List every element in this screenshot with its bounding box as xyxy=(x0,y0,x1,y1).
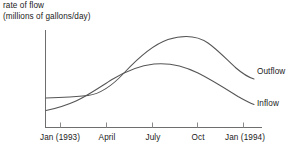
series-curve-outflow xyxy=(46,37,254,98)
x-axis-ticks xyxy=(61,123,244,128)
series-label-outflow: Outflow xyxy=(257,67,285,77)
x-tick-label-jan-1994: Jan (1994) xyxy=(225,133,265,143)
x-tick-label-oct: Oct xyxy=(192,133,205,143)
flow-rate-chart: rate of flow (millions of gallons/day) J… xyxy=(0,0,290,161)
series-label-inflow: Inflow xyxy=(257,99,279,109)
x-tick-label-jan-1993: Jan (1993) xyxy=(40,133,80,143)
x-tick-label-july: July xyxy=(146,133,161,143)
series-curve-inflow xyxy=(46,64,254,111)
x-tick-label-april: April xyxy=(99,133,116,143)
chart-axes xyxy=(45,30,262,128)
